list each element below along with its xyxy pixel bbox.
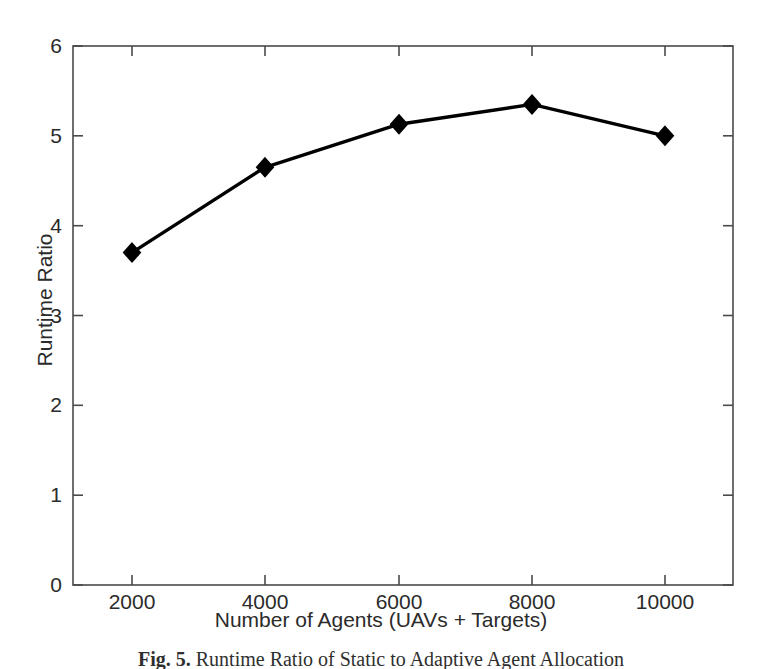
- y-tick-label-1: 1: [32, 483, 62, 507]
- figure-caption: Fig. 5. Runtime Ratio of Static to Adapt…: [0, 648, 762, 669]
- y-axis-title: Runtime Ratio: [33, 170, 57, 430]
- chart-canvas: [0, 0, 762, 640]
- y-tick-label-0: 0: [32, 573, 62, 597]
- figure-caption-label: Fig. 5.: [138, 648, 191, 669]
- y-tick-label-5: 5: [32, 124, 62, 148]
- y-tick-label-6: 6: [32, 34, 62, 58]
- figure-caption-line: Fig. 5. Runtime Ratio of Static to Adapt…: [0, 648, 762, 669]
- figure-caption-body: Runtime Ratio of Static to Adaptive Agen…: [196, 648, 624, 669]
- x-axis-title: Number of Agents (UAVs + Targets): [0, 608, 762, 632]
- figure-root: 0 1 2 3 4 5 6 2000 4000 6000 8000 10000 …: [0, 0, 762, 669]
- runtime-ratio-line-chart: 0 1 2 3 4 5 6 2000 4000 6000 8000 10000 …: [0, 0, 762, 640]
